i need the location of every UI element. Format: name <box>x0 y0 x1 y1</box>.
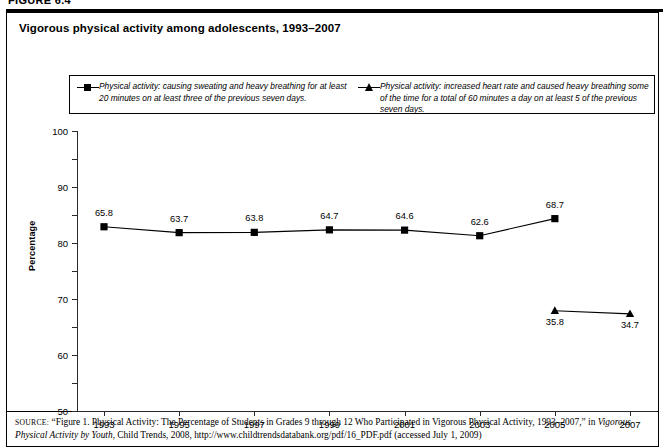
square-marker-icon <box>77 82 99 94</box>
data-point-value-label: 63.7 <box>170 214 188 224</box>
source-text-part1: “Figure 1. Physical Activity: The Percen… <box>52 417 598 427</box>
chart-panel: Vigorous physical activity among adolesc… <box>6 12 659 412</box>
legend-item-triangle-series: Physical activity: increased heart rate … <box>358 81 650 116</box>
y-axis-title: Percentage <box>27 220 37 271</box>
chart-legend: Physical activity: causing sweating and … <box>69 75 655 114</box>
data-point-value-label: 65.8 <box>95 208 113 218</box>
data-point-marker <box>100 223 107 230</box>
data-point-marker <box>401 227 408 234</box>
plot-area: 0102030405060708090100 19931995199719992… <box>77 131 657 411</box>
y-axis-tick-label: 70 <box>57 294 68 305</box>
data-point-marker <box>251 229 258 236</box>
legend-item-square-series: Physical activity: causing sweating and … <box>77 81 349 104</box>
y-axis-tick-label: 60 <box>57 350 68 361</box>
data-point-value-label: 64.7 <box>320 211 338 221</box>
source-note: source: “Figure 1. Physical Activity: Th… <box>6 412 659 447</box>
source-text-part2: , Child Trends, 2008, http://www.childtr… <box>113 430 482 440</box>
chart-title: Vigorous physical activity among adolesc… <box>19 22 341 34</box>
y-axis-tick-label: 80 <box>57 238 68 249</box>
data-point-marker <box>551 215 558 222</box>
data-point-value-label: 68.7 <box>546 200 564 210</box>
figure-root: FIGURE 6.4 Vigorous physical activity am… <box>0 0 669 447</box>
data-point-value-label: 63.8 <box>245 213 263 223</box>
data-point-marker <box>326 226 333 233</box>
y-axis-tick-label: 100 <box>52 126 68 137</box>
legend-label-triangle-series: Physical activity: increased heart rate … <box>380 81 650 116</box>
y-axis-tick-label: 90 <box>57 182 68 193</box>
data-point-value-label: 34.7 <box>621 320 639 330</box>
data-point-marker <box>476 232 483 239</box>
data-point-value-label: 62.6 <box>471 217 489 227</box>
data-point-value-label: 64.6 <box>396 211 414 221</box>
data-point-marker <box>551 306 559 314</box>
series-line-1 <box>555 311 630 314</box>
data-point-value-label: 35.8 <box>546 317 564 327</box>
series-plot <box>77 131 657 411</box>
triangle-marker-icon <box>358 82 380 94</box>
source-prefix: source: <box>15 418 49 427</box>
figure-number-label: FIGURE 6.4 <box>8 0 71 6</box>
legend-label-square-series: Physical activity: causing sweating and … <box>99 81 349 104</box>
data-point-marker <box>176 229 183 236</box>
